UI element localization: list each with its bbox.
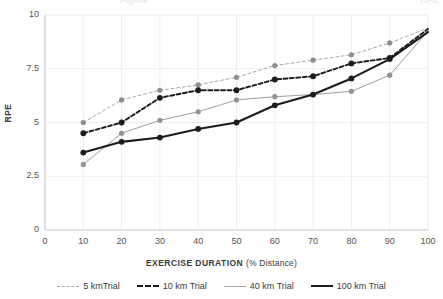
y-tick-label: 0 <box>9 224 39 234</box>
y-axis-title: RPE <box>3 93 13 133</box>
x-tick-label: 10 <box>68 236 98 246</box>
x-tick-label: 20 <box>107 236 137 246</box>
legend-line-swatch <box>57 286 79 287</box>
legend-item[interactable]: 100 km Trial <box>311 281 386 291</box>
legend-label: 40 km Trial <box>250 281 294 291</box>
legend-line-swatch <box>137 285 159 287</box>
y-tick-label: 10 <box>9 9 39 19</box>
series-5-kmtrial <box>81 28 428 125</box>
x-tick-label: 30 <box>145 236 175 246</box>
x-tick-label: 70 <box>298 236 328 246</box>
legend-label: 10 km Trial <box>163 281 207 291</box>
x-tick-label: 80 <box>336 236 366 246</box>
legend-item[interactable]: 5 kmTrial <box>57 281 120 291</box>
legend-label: 5 kmTrial <box>83 281 120 291</box>
x-tick-label: 0 <box>30 236 60 246</box>
legend-label: 100 km Trial <box>337 281 386 291</box>
x-axis-title-unit: (% Distance) <box>246 258 297 268</box>
x-tick-label: 60 <box>260 236 290 246</box>
legend-item[interactable]: 10 km Trial <box>137 281 207 291</box>
legend-line-swatch <box>224 286 246 287</box>
plot-area <box>0 0 443 299</box>
series-10-km-trial <box>80 29 428 136</box>
y-tick-label: 7.5 <box>9 63 39 73</box>
legend-item[interactable]: 40 km Trial <box>224 281 294 291</box>
x-tick-label: 100 <box>413 236 443 246</box>
legend-line-swatch <box>311 285 333 287</box>
y-tick-label: 2.5 <box>9 170 39 180</box>
series-40-km-trial <box>81 31 428 167</box>
chart-legend: 5 kmTrial10 km Trial40 km Trial100 km Tr… <box>0 281 443 291</box>
x-tick-label: 50 <box>222 236 252 246</box>
series-100-km-trial <box>80 32 428 155</box>
x-axis-title: EXERCISE DURATION (% Distance) <box>0 258 443 268</box>
rpe-line-chart: Figure RPE RPE EXERCISE DURATION (% Dist… <box>0 0 443 299</box>
y-tick-label: 5 <box>9 117 39 127</box>
x-axis-title-main: EXERCISE DURATION <box>146 258 243 268</box>
x-tick-label: 90 <box>375 236 405 246</box>
x-tick-label: 40 <box>183 236 213 246</box>
